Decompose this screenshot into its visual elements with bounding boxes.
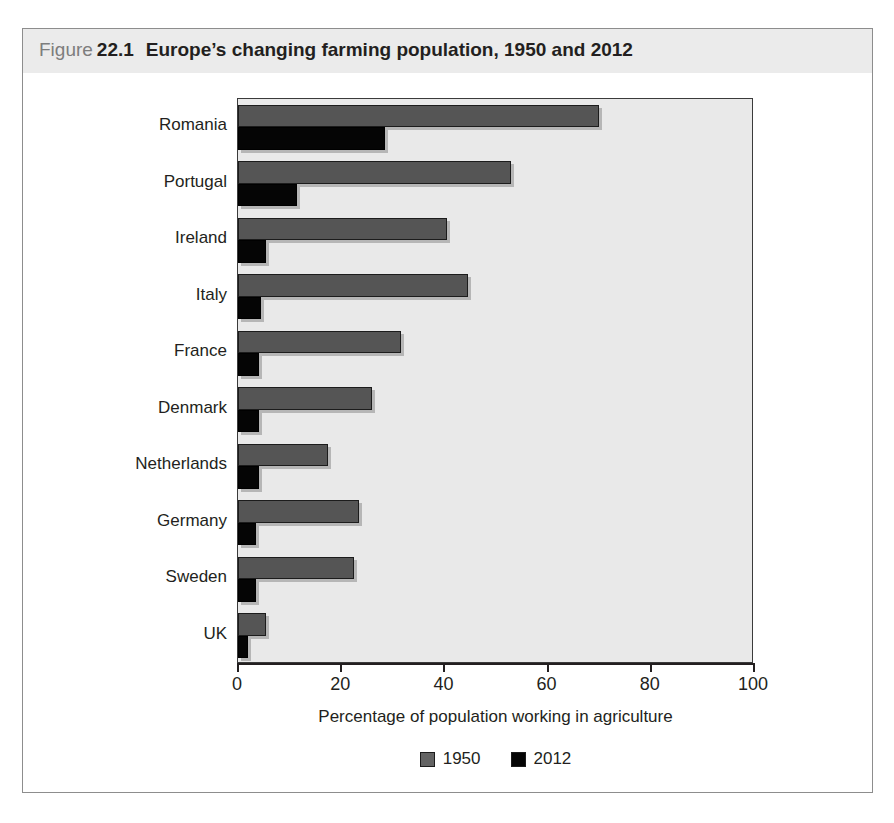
bar-germany-2012[interactable] bbox=[238, 523, 256, 546]
category-label-italy: Italy bbox=[27, 285, 227, 305]
bar-italy-1950[interactable] bbox=[238, 274, 468, 297]
bar-uk-2012[interactable] bbox=[238, 636, 248, 659]
bar-portugal-2012[interactable] bbox=[238, 184, 297, 207]
bar-ireland-2012[interactable] bbox=[238, 240, 266, 263]
category-label-ireland: Ireland bbox=[27, 228, 227, 248]
x-tick-label: 60 bbox=[517, 674, 577, 695]
bar-group bbox=[238, 382, 752, 439]
figure-number: 22.1 bbox=[97, 39, 134, 60]
plot-area bbox=[237, 98, 753, 663]
x-tick bbox=[340, 663, 342, 672]
bar-sweden-2012[interactable] bbox=[238, 579, 256, 602]
bar-group bbox=[238, 325, 752, 382]
legend-item-2012[interactable]: 2012 bbox=[511, 749, 572, 769]
chart-area: RomaniaPortugalIrelandItalyFranceDenmark… bbox=[23, 73, 874, 793]
x-axis-line bbox=[237, 663, 754, 665]
x-tick-label: 100 bbox=[723, 674, 783, 695]
bar-group bbox=[238, 99, 752, 156]
gray-swatch-icon bbox=[420, 752, 435, 767]
bar-netherlands-1950[interactable] bbox=[238, 444, 328, 467]
bar-romania-1950[interactable] bbox=[238, 105, 599, 128]
category-label-portugal: Portugal bbox=[27, 172, 227, 192]
bar-netherlands-2012[interactable] bbox=[238, 466, 259, 489]
category-axis-labels: RomaniaPortugalIrelandItalyFranceDenmark… bbox=[23, 98, 227, 663]
figure-frame: Figure22.1Europe’s changing farming popu… bbox=[22, 28, 873, 793]
bar-germany-1950[interactable] bbox=[238, 500, 359, 523]
bar-denmark-1950[interactable] bbox=[238, 387, 372, 410]
x-axis-title: Percentage of population working in agri… bbox=[237, 707, 754, 727]
bar-group bbox=[238, 269, 752, 326]
figure-title-band: Figure22.1Europe’s changing farming popu… bbox=[23, 29, 872, 73]
legend-item-1950[interactable]: 1950 bbox=[420, 749, 481, 769]
category-label-denmark: Denmark bbox=[27, 398, 227, 418]
category-label-uk: UK bbox=[27, 624, 227, 644]
bar-france-1950[interactable] bbox=[238, 331, 401, 354]
category-label-romania: Romania bbox=[27, 115, 227, 135]
bar-portugal-1950[interactable] bbox=[238, 161, 511, 184]
x-tick-label: 40 bbox=[413, 674, 473, 695]
figure-title-text: Europe’s changing farming population, 19… bbox=[146, 39, 633, 60]
bar-denmark-2012[interactable] bbox=[238, 410, 259, 433]
legend-label-1950: 1950 bbox=[443, 749, 481, 769]
x-tick bbox=[237, 663, 239, 672]
x-tick-label: 0 bbox=[207, 674, 267, 695]
bar-sweden-1950[interactable] bbox=[238, 557, 354, 580]
bar-group bbox=[238, 438, 752, 495]
black-swatch-icon bbox=[511, 752, 526, 767]
category-label-france: France bbox=[27, 341, 227, 361]
bar-group bbox=[238, 551, 752, 608]
bar-france-2012[interactable] bbox=[238, 353, 259, 376]
category-label-sweden: Sweden bbox=[27, 567, 227, 587]
x-tick bbox=[547, 663, 549, 672]
x-tick bbox=[443, 663, 445, 672]
x-tick bbox=[650, 663, 652, 672]
bar-group bbox=[238, 156, 752, 213]
category-label-netherlands: Netherlands bbox=[27, 454, 227, 474]
bar-uk-1950[interactable] bbox=[238, 613, 266, 636]
legend-label-2012: 2012 bbox=[534, 749, 572, 769]
bar-group bbox=[238, 495, 752, 552]
figure-label-word: Figure bbox=[39, 39, 93, 60]
bar-ireland-1950[interactable] bbox=[238, 218, 447, 241]
bar-group bbox=[238, 608, 752, 665]
bar-group bbox=[238, 212, 752, 269]
bar-italy-2012[interactable] bbox=[238, 297, 261, 320]
x-tick-label: 80 bbox=[620, 674, 680, 695]
category-label-germany: Germany bbox=[27, 511, 227, 531]
x-tick bbox=[753, 663, 755, 672]
figure-title: Figure22.1Europe’s changing farming popu… bbox=[39, 37, 633, 63]
chart-legend: 1950 2012 bbox=[237, 749, 754, 769]
x-tick-label: 20 bbox=[310, 674, 370, 695]
bar-romania-2012[interactable] bbox=[238, 127, 385, 150]
